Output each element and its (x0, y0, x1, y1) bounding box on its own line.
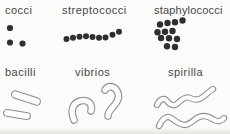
staphylococci-illustration (154, 17, 185, 50)
bacillus-rod-top (11, 90, 42, 106)
vibrio-right-fill (105, 87, 119, 116)
bacteria-illustrations (0, 0, 230, 134)
worm-shapes-outline (72, 87, 224, 126)
streptococci-illustration (64, 29, 123, 42)
bacillus-rod-bottom (3, 109, 31, 120)
bacteria-shapes-figure: cocci streptococci staphylococci bacilli… (0, 0, 230, 134)
spirillum-bottom-fill (159, 116, 224, 126)
bacilli-illustration (3, 90, 41, 120)
dot-shapes (7, 17, 186, 50)
cocci-illustration (7, 25, 26, 47)
